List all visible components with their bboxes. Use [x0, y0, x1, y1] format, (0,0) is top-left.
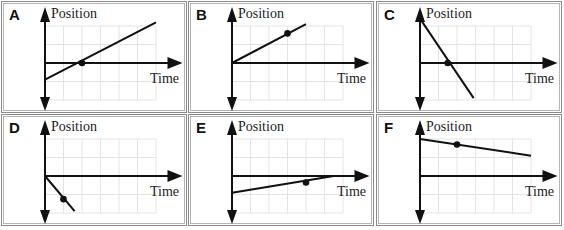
- data-point: [454, 141, 461, 148]
- position-label: Position: [238, 119, 284, 134]
- arrow-right-icon: [168, 57, 183, 69]
- data-point: [284, 30, 291, 37]
- time-label: Time: [150, 184, 179, 199]
- graph-panel-a: APositionTime: [1, 1, 187, 113]
- data-point: [303, 179, 310, 186]
- graph-panel-b: BPositionTime: [188, 1, 374, 113]
- time-label: Time: [337, 184, 366, 199]
- arrow-right-icon: [543, 170, 558, 182]
- position-time-graph: PositionTime: [189, 115, 375, 227]
- position-time-graph: PositionTime: [189, 2, 375, 114]
- position-time-graph: PositionTime: [2, 115, 188, 227]
- arrow-down-icon: [40, 210, 50, 224]
- arrow-up-icon: [415, 120, 425, 135]
- position-line: [420, 19, 474, 99]
- arrow-up-icon: [40, 7, 50, 22]
- time-label: Time: [337, 71, 366, 86]
- arrow-down-icon: [227, 210, 237, 224]
- position-label: Position: [426, 6, 472, 21]
- time-label: Time: [525, 71, 554, 86]
- time-label: Time: [150, 71, 179, 86]
- graph-panel-d: DPositionTime: [1, 114, 187, 226]
- arrow-up-icon: [227, 7, 237, 22]
- position-time-graph: PositionTime: [377, 115, 563, 227]
- position-time-graph: PositionTime: [377, 2, 563, 114]
- position-line: [232, 176, 334, 193]
- arrow-right-icon: [355, 57, 370, 69]
- graph-panel-e: EPositionTime: [188, 114, 374, 226]
- arrow-down-icon: [415, 97, 425, 111]
- arrow-down-icon: [40, 97, 50, 111]
- arrow-up-icon: [40, 120, 50, 135]
- position-line: [45, 176, 75, 211]
- data-point: [60, 196, 67, 203]
- arrow-right-icon: [543, 57, 558, 69]
- position-label: Position: [51, 6, 97, 21]
- time-label: Time: [525, 184, 554, 199]
- position-time-graph: PositionTime: [2, 2, 188, 114]
- position-label: Position: [426, 119, 472, 134]
- position-label: Position: [238, 6, 284, 21]
- arrow-down-icon: [227, 97, 237, 111]
- graph-panel-c: CPositionTime: [376, 1, 562, 113]
- position-label: Position: [51, 119, 97, 134]
- arrow-up-icon: [227, 120, 237, 135]
- arrow-down-icon: [415, 210, 425, 224]
- data-point: [444, 60, 451, 67]
- arrow-right-icon: [355, 170, 370, 182]
- arrow-right-icon: [168, 170, 183, 182]
- data-point: [79, 60, 86, 67]
- graph-panel-f: FPositionTime: [376, 114, 562, 226]
